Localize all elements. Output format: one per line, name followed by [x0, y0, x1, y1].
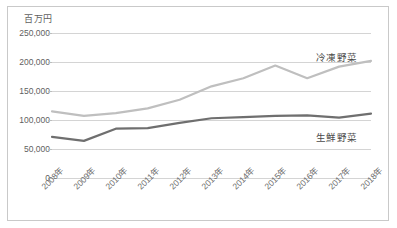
series-line-frozen	[52, 61, 371, 116]
chart-plot-lines	[0, 0, 397, 228]
series-label-fresh: 生鮮野菜	[316, 130, 357, 144]
chart-container: 百万円 250,000200,000150,000100,00050,0000 …	[0, 0, 397, 228]
series-label-frozen: 冷凍野菜	[316, 50, 357, 64]
